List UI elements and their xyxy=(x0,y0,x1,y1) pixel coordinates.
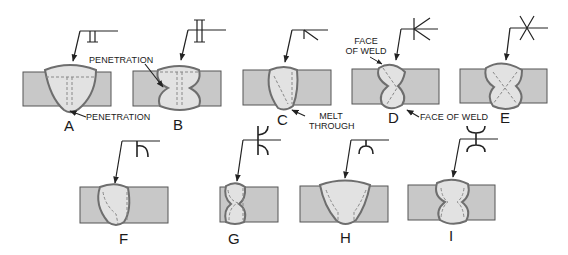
figure-label-i: I xyxy=(449,228,453,243)
weld-symbol-e xyxy=(506,16,548,60)
annotation-d-face-bottom: FACE OF WELD xyxy=(420,113,488,122)
weld-symbol-i xyxy=(453,126,498,177)
figure-label-d: D xyxy=(388,110,399,125)
figure-label-c: C xyxy=(277,112,288,127)
annotation-d-line2: OF WELD xyxy=(343,46,389,56)
figure-d xyxy=(352,18,439,117)
annotation-a-penetration: PENETRATION xyxy=(86,113,150,122)
weld-symbol-h xyxy=(345,140,389,178)
annotation-c-line1: MELT xyxy=(309,111,353,121)
figure-label-e: E xyxy=(500,110,510,125)
square-groove-both-sides-icon xyxy=(194,20,205,42)
figure-i xyxy=(408,126,498,224)
figure-f xyxy=(80,141,168,225)
annotation-d-face-top: FACE OF WELD xyxy=(343,36,389,56)
figure-label-g: G xyxy=(228,231,240,246)
j-groove-icon xyxy=(137,141,148,157)
annotation-d-line1: FACE xyxy=(343,36,389,46)
u-groove-icon xyxy=(359,140,373,154)
figure-g xyxy=(220,126,281,224)
figure-b xyxy=(133,20,226,110)
weld-symbol-f xyxy=(115,141,160,183)
square-groove-icon xyxy=(87,31,98,42)
figure-label-b: B xyxy=(173,117,183,132)
weld-symbol-g xyxy=(237,126,281,181)
figure-e xyxy=(460,16,548,109)
figure-label-h: H xyxy=(340,230,351,245)
figure-h xyxy=(300,140,389,224)
bevel-groove-icon xyxy=(304,30,318,40)
annotation-b-penetration: PENETRATION xyxy=(89,56,153,65)
figure-c xyxy=(243,30,331,116)
weld-symbol-b xyxy=(181,20,226,60)
weld-symbol-d xyxy=(396,18,438,60)
figure-label-a: A xyxy=(64,118,74,133)
annotation-c-line2: THROUGH xyxy=(309,121,353,131)
weld-symbol-c xyxy=(285,30,328,62)
figure-label-f: F xyxy=(119,231,128,246)
figure-a xyxy=(23,31,118,117)
annotation-c-melt-through: MELT THROUGH xyxy=(309,111,353,131)
